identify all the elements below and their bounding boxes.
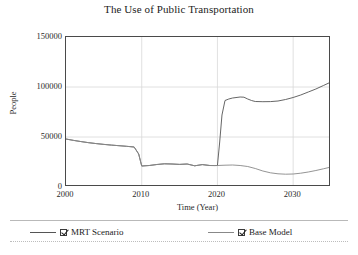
series-line-base-model bbox=[66, 139, 330, 174]
x-tick-label: 2020 bbox=[196, 189, 236, 199]
y-tick-label: 150000 bbox=[4, 31, 62, 41]
legend-item-base-model[interactable]: Base Model bbox=[208, 223, 292, 241]
series-line-mrt-scenario bbox=[66, 82, 330, 166]
chart-container: The Use of Public Transportation 0500001… bbox=[0, 0, 358, 255]
x-axis-label: Time (Year) bbox=[65, 202, 330, 212]
chart-legend: MRT Scenario Base Model bbox=[10, 220, 348, 242]
series-lines bbox=[66, 82, 330, 174]
y-axis-label: People bbox=[8, 73, 18, 133]
plot-area bbox=[65, 36, 330, 186]
x-tick-label: 2010 bbox=[121, 189, 161, 199]
plot-svg bbox=[66, 37, 330, 186]
checkbox-icon[interactable] bbox=[60, 229, 67, 236]
legend-item-label: MRT Scenario bbox=[71, 227, 124, 237]
legend-line-swatch bbox=[208, 232, 234, 233]
x-tick-label: 2000 bbox=[45, 189, 85, 199]
legend-item-label: Base Model bbox=[249, 227, 292, 237]
x-tick-label: 2030 bbox=[272, 189, 312, 199]
gridlines bbox=[66, 37, 330, 186]
checkbox-icon[interactable] bbox=[238, 229, 245, 236]
legend-item-mrt-scenario[interactable]: MRT Scenario bbox=[30, 223, 124, 241]
legend-line-swatch bbox=[30, 232, 56, 233]
